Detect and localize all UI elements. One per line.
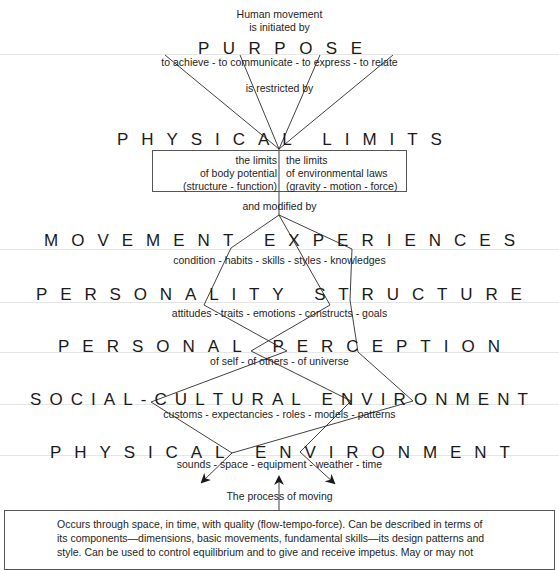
body-limits-line-2: of body potential [183,167,277,180]
body-potential-column: the limits of body potential (structure … [183,154,277,193]
process-label: The process of moving [0,490,559,503]
intro-line-2: is initiated by [0,21,559,34]
social-cultural-environment-heading-text: SOCIAL-CULTURAL ENVIRONMENT [30,391,528,409]
env-limits-line-1: the limits [286,154,397,167]
movement-experiences-heading-text: MOVEMENT EXPERIENCES [44,232,515,250]
physical-environment-subtext: sounds - space - equipment - weather - t… [0,458,559,471]
intro-line-1: Human movement [0,8,559,21]
physical-limits-box: the limits of body potential (structure … [152,150,407,192]
social-cultural-environment-heading: SOCIAL-CULTURAL ENVIRONMENT [30,391,528,409]
personal-perception-subtext: of self - of others - of universe [0,355,559,368]
process-description-box: Occurs through space, in time, with qual… [4,510,555,570]
process-line-3: style. Can be used to control equilibriu… [57,545,507,559]
movement-experiences-heading: MOVEMENT EXPERIENCES [44,232,515,250]
connector-modified: and modified by [0,200,559,213]
env-limits-line-2: of environmental laws [286,167,397,180]
purpose-subtext: to achieve - to communicate - to express… [0,56,559,69]
env-limits-line-3: (gravity - motion - force) [286,180,397,193]
personality-structure-subtext: attitudes - traits - emotions - construc… [0,307,559,320]
personal-perception-heading: PERSONAL PERCEPTION [58,338,500,356]
process-line-2: its components—dimensions, basic movemen… [57,531,507,545]
personality-structure-heading-text: PERSONALITY STRUCTURE [36,286,522,304]
body-limits-line-1: the limits [183,154,277,167]
personal-perception-heading-text: PERSONAL PERCEPTION [58,338,500,356]
physical-limits-heading: PHYSICAL LIMITS [117,131,442,149]
social-cultural-environment-subtext: customs - expectancies - roles - models … [0,408,559,421]
movement-experiences-subtext: condition - habits - skills - styles - k… [0,254,559,267]
environmental-laws-column: the limits of environmental laws (gravit… [286,154,397,193]
physical-limits-heading-text: PHYSICAL LIMITS [117,131,442,149]
process-line-1: Occurs through space, in time, with qual… [57,517,507,531]
process-description: Occurs through space, in time, with qual… [57,517,507,560]
connector-restricted: is restricted by [0,82,559,95]
personality-structure-heading: PERSONALITY STRUCTURE [36,286,522,304]
body-limits-line-3: (structure - function) [183,180,277,193]
